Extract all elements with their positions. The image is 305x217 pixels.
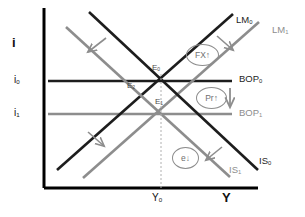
curve-is0: [89, 12, 258, 170]
curve-label-lm0: LM0: [236, 15, 252, 26]
curve-label-bop0: BOP0: [239, 74, 262, 85]
curve-label-is1: IS1: [229, 165, 241, 176]
equilibrium-label-e1: E1: [155, 98, 163, 107]
figure-canvas: i Y i0 i1 Y0 LM0 LM1 IS0 IS1 BOP0 BOP1 E…: [0, 0, 305, 217]
equilibrium-label-e2: E2: [127, 82, 135, 91]
arrow-is-shift-upper: [88, 38, 106, 52]
annotation-fx-up-text: FX↑: [195, 50, 210, 60]
annotation-pr-up: Pr↑: [196, 87, 227, 109]
annotation-e-down-text: e↓: [181, 153, 190, 163]
curve-label-is0: IS0: [259, 156, 271, 167]
annotation-fx-up: FX↑: [186, 44, 219, 66]
y-tick-i1: i1: [14, 108, 20, 118]
arrow-is-shift-lower: [206, 147, 222, 160]
arrow-lm-shift-upper: [217, 36, 233, 50]
x-axis-label: Y: [222, 191, 231, 204]
curve-label-lm1: LM1: [272, 25, 288, 36]
annotation-e-down: e↓: [172, 147, 199, 169]
annotation-pr-up-text: Pr↑: [205, 93, 218, 103]
y-axis-label: i: [12, 36, 16, 49]
equilibrium-label-e0: E0: [152, 64, 160, 73]
y-tick-i0: i0: [14, 75, 20, 85]
curve-lm1: [83, 22, 259, 178]
x-tick-y0: Y0: [152, 193, 162, 203]
curve-label-bop1: BOP1: [239, 108, 262, 119]
